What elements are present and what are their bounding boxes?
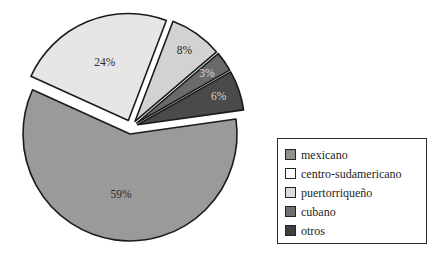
legend-swatch-icon [285, 149, 296, 160]
legend-item-label: puertorriqueño [301, 187, 372, 199]
legend-item-label: mexicano [301, 149, 348, 161]
legend-swatch-icon [285, 168, 296, 179]
pie-slice-value-label: 8% [177, 44, 193, 56]
legend-item[interactable]: centro-sudamericano [285, 164, 426, 183]
pie-slice-group [23, 14, 244, 241]
legend-item[interactable]: puertorriqueño [285, 183, 426, 202]
legend-swatch-icon [285, 206, 296, 217]
pie-slice-value-label: 6% [211, 90, 227, 102]
pie-slice-value-label: 3% [199, 67, 215, 79]
pie-slice-value-label: 59% [111, 188, 133, 200]
legend-item[interactable]: cubano [285, 202, 426, 221]
pie-chart-figure: 59%24%8%3%6% mexicanocentro-sudamericano… [0, 0, 438, 262]
legend-item[interactable]: mexicano [285, 145, 426, 164]
pie-svg: 59%24%8%3%6% [0, 0, 262, 262]
legend-swatch-icon [285, 225, 296, 236]
pie-plot-area: 59%24%8%3%6% [0, 0, 262, 262]
pie-slice-value-label: 24% [94, 56, 116, 68]
legend-item-label: otros [301, 225, 325, 237]
chart-legend: mexicanocentro-sudamericanopuertorriqueñ… [277, 138, 427, 244]
legend-swatch-icon [285, 187, 296, 198]
legend-item[interactable]: otros [285, 221, 426, 240]
legend-item-label: centro-sudamericano [301, 168, 402, 180]
legend-item-label: cubano [301, 206, 336, 218]
